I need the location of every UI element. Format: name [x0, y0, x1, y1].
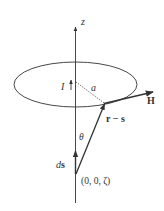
current-label: I — [60, 81, 65, 92]
separation-label: r − s — [106, 113, 125, 124]
z-axis-label: z — [80, 16, 85, 27]
field-label: H — [147, 95, 155, 106]
element-label: ds — [56, 159, 65, 170]
angle-label: θ — [79, 132, 84, 142]
field-vector — [104, 92, 153, 104]
radius-label: a — [91, 82, 96, 93]
radius-line — [76, 82, 104, 103]
point-label: (0, 0, ζ) — [81, 176, 110, 187]
